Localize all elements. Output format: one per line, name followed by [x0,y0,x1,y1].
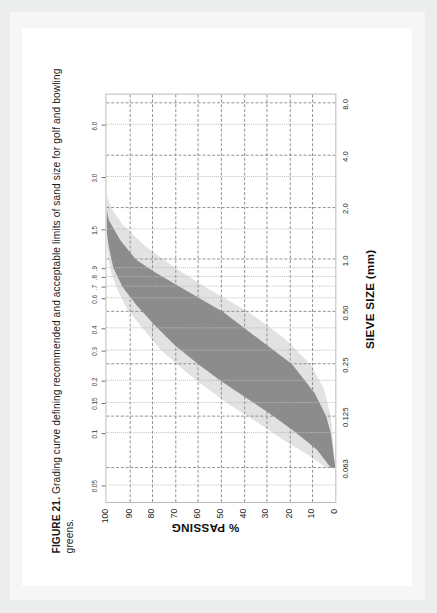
y-tick-label: 100 [101,509,111,536]
y-tick-label: 0 [330,509,340,536]
x-tick-label: 1.0 [341,255,350,266]
x-minor-tickmark [102,403,106,404]
y-tick-label: 10 [307,509,317,536]
scanned-page-background: FIGURE 21. Grading curve defining recomm… [0,0,437,613]
x-tick-label: 4.0 [341,151,350,162]
figure-paper: FIGURE 21. Grading curve defining recomm… [22,28,412,586]
plot-area [105,94,336,503]
x-minor-tickmark [102,287,106,288]
page-sheet: FIGURE 21. Grading curve defining recomm… [10,12,425,600]
rotated-figure-stage: FIGURE 21. Grading curve defining recomm… [47,55,387,559]
figure-caption-text: Grading curve defining recommended and a… [50,69,75,554]
x-minor-tick-label: 0.1 [91,430,98,439]
y-axis-title: % PASSING [128,521,283,535]
x-minor-tick-label: 3.0 [91,174,98,183]
x-minor-tick-label: 0.3 [91,347,98,356]
figure-number: FIGURE 21. [50,497,62,553]
x-minor-tick-label: .7 [91,285,98,290]
x-minor-tickmark [102,277,106,278]
y-tick-label: 20 [284,509,294,536]
x-minor-tickmark [102,381,106,382]
x-minor-tickmark [102,177,106,178]
x-minor-tick-label: 1.5 [91,226,98,235]
grading-curve-chart: 0.0630.1250.250.501.02.04.08.0 0.050.10.… [80,55,387,559]
x-minor-tick-label: 0.2 [91,377,98,386]
x-minor-tickmark [102,350,106,351]
x-tick-label: 0.25 [341,358,350,373]
x-minor-tickmark [102,125,106,126]
x-minor-tickmark [102,485,106,486]
x-tick-label: 0.50 [341,305,350,320]
x-tick-label: 0.063 [341,459,350,478]
x-minor-tick-label: 0.6 [91,295,98,304]
x-minor-tick-label: .8 [91,275,98,280]
grading-envelope-bands [106,95,335,502]
x-minor-tick-label: 6.0 [91,122,98,131]
x-minor-tick-label: 0.4 [91,325,98,334]
x-minor-tickmark [102,229,106,230]
x-minor-tick-label: 0.15 [91,397,98,409]
x-minor-tick-label: 0.05 [91,480,98,492]
x-tick-label: 0.125 [341,408,350,427]
x-tick-label: 8.0 [341,99,350,110]
x-minor-tickmark [102,268,106,269]
x-tick-label: 2.0 [341,203,350,214]
x-axis-title: SIEVE SIZE (mm) [363,96,377,503]
x-minor-tick-label: .9 [91,266,98,271]
x-minor-tickmark [102,329,106,330]
x-minor-tickmark [102,298,106,299]
x-minor-tickmark [102,433,106,434]
figure-caption: FIGURE 21. Grading curve defining recomm… [49,66,76,553]
